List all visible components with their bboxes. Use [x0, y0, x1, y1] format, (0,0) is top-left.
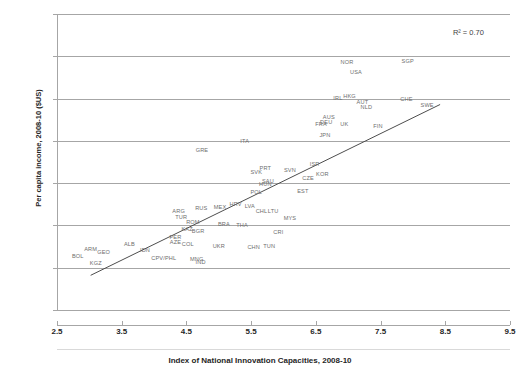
data-point-label: FIN — [373, 123, 382, 129]
data-point-label: GRE — [196, 147, 209, 153]
data-point-label: COL — [182, 241, 194, 247]
x-axis-tick-mark — [186, 321, 187, 325]
y-axis-title: Per capita income, 2008-10 ($US) — [34, 48, 43, 248]
plot-area: 6000050000400003000020000100000-10000 BO… — [57, 14, 510, 310]
data-point-label: UK — [340, 121, 348, 127]
data-point-label: MYS — [284, 215, 297, 221]
footer-divider — [57, 349, 510, 350]
x-axis-line — [57, 325, 510, 326]
data-point-label: CHE — [400, 96, 412, 102]
data-point-label: PRT — [260, 165, 272, 171]
data-point-label: BGR — [192, 228, 205, 234]
x-axis-tick-label: 5.5 — [246, 327, 257, 336]
data-point-label: SGP — [402, 58, 414, 64]
x-axis-tick-label: 2.5 — [51, 327, 62, 336]
x-axis-tick-mark — [251, 321, 252, 325]
x-axis-tick-label: 6.5 — [310, 327, 321, 336]
data-point-label: ISR — [310, 161, 320, 167]
x-axis-tick-label: 4.5 — [181, 327, 192, 336]
x-axis-tick-label: 3.5 — [116, 327, 127, 336]
data-point-label: USA — [350, 69, 362, 75]
data-point-label: AUS — [323, 114, 335, 120]
x-axis-tick-mark — [57, 321, 58, 325]
data-point-label: CPV/PHL — [151, 255, 176, 261]
data-point-label: THA — [236, 222, 248, 228]
data-point-label: SWE — [421, 102, 434, 108]
scatter-chart: 6000050000400003000020000100000-10000 BO… — [0, 0, 520, 374]
data-point-label: RUS — [195, 205, 207, 211]
data-point-label: SVN — [284, 167, 296, 173]
data-point-label: JPN — [319, 132, 330, 138]
data-point-label: MEX — [214, 204, 227, 210]
data-point-label: TUN — [263, 243, 275, 249]
data-point-label: KOR — [316, 171, 329, 177]
data-point-label: BOL — [72, 253, 84, 259]
data-point-label: HRV — [230, 201, 242, 207]
data-point-label: POL — [250, 189, 262, 195]
data-point-label: BRA — [218, 221, 230, 227]
data-point-label: TUR — [175, 214, 187, 220]
gridline — [57, 310, 510, 311]
x-axis-tick-label: 7.5 — [375, 327, 386, 336]
x-axis-tick-label: 8.5 — [440, 327, 451, 336]
data-point-label: IDN — [140, 247, 150, 253]
data-point-label: CHN — [247, 244, 260, 250]
x-axis-tick-mark — [510, 321, 511, 325]
data-point-label: ITA — [240, 138, 249, 144]
data-point-label: HKG — [343, 93, 356, 99]
data-point-label: EST — [297, 188, 308, 194]
data-point-label: ROM — [186, 219, 200, 225]
data-point-label: SAU — [262, 178, 274, 184]
data-point-label: CRI — [273, 229, 283, 235]
x-axis-tick-label: 9.5 — [504, 327, 515, 336]
data-point-label: DEU — [320, 119, 332, 125]
data-point-label: AZE — [170, 239, 181, 245]
data-point-label: KGZ — [90, 260, 102, 266]
x-axis-tick-mark — [122, 321, 123, 325]
data-point-label: ARG — [172, 208, 185, 214]
data-point-label: GEO — [97, 249, 110, 255]
data-point-label: NOR — [340, 59, 353, 65]
data-point-label: ARM — [84, 246, 97, 252]
data-point-label: IND — [196, 259, 206, 265]
data-point-label: UKR — [213, 243, 225, 249]
data-point-label: IRL — [333, 95, 342, 101]
r-squared-annotation: R² = 0.70 — [453, 28, 484, 37]
x-axis-tick-mark — [381, 321, 382, 325]
data-point-label: LVA — [245, 203, 255, 209]
x-axis-tick-mark — [445, 321, 446, 325]
x-axis-tick-mark — [316, 321, 317, 325]
x-axis-title: Index of National Innovation Capacities,… — [0, 356, 520, 365]
data-point-label: CZE — [302, 175, 314, 181]
data-point-label: LTU — [268, 208, 279, 214]
data-point-label: AUT — [357, 99, 369, 105]
data-point-label: CHL — [256, 208, 268, 214]
trendline — [57, 14, 510, 310]
data-point-label: ALB — [124, 241, 135, 247]
